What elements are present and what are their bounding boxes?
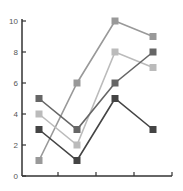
x-axis <box>22 172 172 176</box>
data-point-marker <box>74 80 81 87</box>
y-tick-label: 4 <box>14 110 19 119</box>
data-point-marker <box>36 126 43 133</box>
series-line <box>39 21 153 161</box>
data-point-marker <box>36 111 43 118</box>
y-axis: 0246810 <box>9 17 26 181</box>
data-point-marker <box>150 126 157 133</box>
data-point-marker <box>112 18 119 25</box>
data-point-marker <box>112 49 119 56</box>
data-point-marker <box>150 64 157 71</box>
line-chart: 0246810 <box>0 0 183 191</box>
data-point-marker <box>36 157 43 164</box>
data-point-marker <box>150 33 157 40</box>
data-point-marker <box>150 49 157 56</box>
y-tick-label: 0 <box>14 172 19 181</box>
y-tick-label: 6 <box>14 79 19 88</box>
data-point-marker <box>74 157 81 164</box>
data-point-marker <box>74 142 81 149</box>
data-point-marker <box>112 80 119 87</box>
series-layer <box>36 18 157 165</box>
y-tick-label: 10 <box>9 17 18 26</box>
y-tick-label: 8 <box>14 48 19 57</box>
data-point-marker <box>74 126 81 133</box>
y-tick-label: 2 <box>14 141 19 150</box>
data-point-marker <box>112 95 119 102</box>
data-point-marker <box>36 95 43 102</box>
series-line <box>39 99 153 161</box>
series-line <box>39 52 153 130</box>
